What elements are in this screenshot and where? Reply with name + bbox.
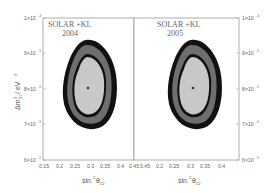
right-y-tick-labels: 1×10 9×10 8×10 7×10 6×10 (242, 15, 254, 163)
svg-text:0.4: 0.4 (218, 163, 225, 169)
svg-text:sin: sin (82, 177, 91, 184)
svg-text:0.3: 0.3 (87, 163, 94, 169)
svg-text:0.4: 0.4 (117, 163, 124, 169)
svg-text:-5: -5 (256, 120, 259, 124)
svg-text:2: 2 (13, 73, 18, 76)
left-y-tick-exps: -4 -5 -5 -5 -5 (38, 14, 41, 160)
right-title: SOLAR +KL (157, 20, 201, 29)
svg-text:1×10: 1×10 (242, 15, 254, 21)
svg-text:-5: -5 (256, 156, 259, 160)
left-x-tick-labels: 0.15 0.2 0.25 0.3 0.35 0.4 0.45 (39, 163, 139, 169)
svg-text:Δm: Δm (14, 99, 21, 110)
svg-text:0.45: 0.45 (140, 163, 150, 169)
left-panel: SOLAR +KL 2004 (43, 18, 134, 160)
svg-text:0.2: 0.2 (156, 163, 163, 169)
svg-text:12: 12 (196, 181, 201, 186)
left-y-tick-labels: 1×10 9×10 8×10 7×10 6×10 (24, 15, 36, 163)
svg-text:0.35: 0.35 (100, 163, 110, 169)
svg-text:8×10: 8×10 (24, 86, 36, 92)
svg-text:7×10: 7×10 (24, 121, 36, 127)
svg-text:0.35: 0.35 (200, 163, 210, 169)
svg-text:7×10: 7×10 (242, 121, 254, 127)
left-year: 2004 (62, 29, 78, 38)
svg-text:0.2: 0.2 (56, 163, 63, 169)
svg-text:6×10: 6×10 (242, 157, 254, 163)
right-x-axis-label: sin 2 θ 12 (178, 175, 201, 186)
right-best-fit-point (192, 87, 195, 90)
chart-figure: SOLAR +KL 2004 SOLAR +KL 2005 1×10 9×10 … (0, 0, 267, 193)
right-year: 2005 (167, 29, 183, 38)
svg-text:0.45: 0.45 (129, 163, 139, 169)
svg-text:9×10: 9×10 (242, 50, 254, 56)
svg-text:-4: -4 (38, 14, 41, 18)
left-title: SOLAR +KL (48, 20, 92, 29)
svg-text:0.15: 0.15 (39, 163, 49, 169)
svg-text:0.25: 0.25 (70, 163, 80, 169)
svg-text:/ eV: / eV (14, 81, 21, 94)
y-axis-label: Δm 2 21 / eV 2 (13, 73, 23, 110)
svg-text:1×10: 1×10 (24, 15, 36, 21)
svg-text:-5: -5 (38, 49, 41, 53)
svg-text:-5: -5 (38, 156, 41, 160)
svg-text:-5: -5 (38, 85, 41, 89)
svg-text:0.3: 0.3 (187, 163, 194, 169)
svg-text:-5: -5 (38, 120, 41, 124)
right-x-tick-labels: 0.45 0.2 0.25 0.3 0.35 0.4 (140, 163, 225, 169)
right-panel: SOLAR +KL 2005 (134, 18, 239, 160)
svg-text:9×10: 9×10 (24, 50, 36, 56)
svg-text:sin: sin (178, 177, 187, 184)
left-x-axis-label: sin 2 θ 12 (82, 175, 105, 186)
svg-text:8×10: 8×10 (242, 86, 254, 92)
svg-text:-5: -5 (256, 85, 259, 89)
svg-text:0.25: 0.25 (169, 163, 179, 169)
svg-text:12: 12 (100, 181, 105, 186)
svg-text:-4: -4 (256, 14, 259, 18)
left-best-fit-point (87, 87, 90, 90)
svg-text:-5: -5 (256, 49, 259, 53)
right-y-tick-exps: -4 -5 -5 -5 -5 (256, 14, 259, 160)
svg-text:6×10: 6×10 (24, 157, 36, 163)
